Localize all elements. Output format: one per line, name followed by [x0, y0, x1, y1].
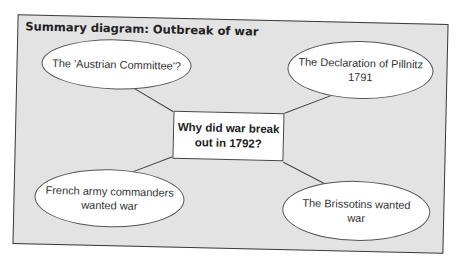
node-label: The Declaration of Pillnitz: [298, 55, 423, 72]
node-label: French army commanders: [45, 183, 174, 200]
node-label-line2: war: [302, 210, 411, 226]
node-label-line2: wanted war: [45, 197, 174, 214]
central-question-line1: Why did war break: [178, 120, 280, 137]
summary-diagram-panel: Summary diagram: Outbreak of war The 'Au…: [12, 14, 448, 254]
central-question-box: Why did war break out in 1792?: [172, 111, 284, 162]
node-label: The 'Austrian Committee'?: [52, 56, 181, 73]
node-label: The Brissotins wanted: [302, 196, 411, 212]
node-label-line2: 1791: [298, 69, 423, 86]
central-question-line2: out in 1792?: [177, 135, 279, 152]
